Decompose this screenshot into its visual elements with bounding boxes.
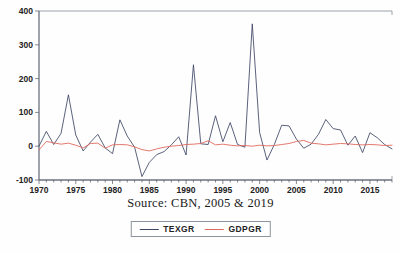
x-tick-label: 1995 xyxy=(213,185,232,195)
chart-legend: TEXGR GDPGR xyxy=(130,221,270,237)
legend-label-gdpgr: GDPGR xyxy=(229,224,262,234)
chart-tick-labels: -100010020030040019701975198019851990199… xyxy=(16,6,380,195)
y-tick-label: 400 xyxy=(19,6,33,16)
y-tick-label: 0 xyxy=(28,141,33,151)
legend-label-texgr: TEXGR xyxy=(163,224,194,234)
chart-figure: -100010020030040019701975198019851990199… xyxy=(0,0,401,253)
x-tick-label: 2015 xyxy=(360,185,379,195)
legend-swatch-gdpgr xyxy=(205,229,224,230)
chart-caption: Source: CBN, 2005 & 2019 xyxy=(0,196,401,211)
line-chart-plot: -100010020030040019701975198019851990199… xyxy=(0,0,401,196)
x-tick-label: 1980 xyxy=(103,185,122,195)
x-tick-label: 1975 xyxy=(66,185,85,195)
legend-item-gdpgr: GDPGR xyxy=(205,224,262,234)
x-tick-label: 1985 xyxy=(140,185,159,195)
y-tick-label: -100 xyxy=(16,175,33,185)
chart-frame xyxy=(39,11,392,180)
x-tick-label: 1990 xyxy=(177,185,196,195)
series-line-gdpgr xyxy=(39,140,392,150)
y-tick-label: 200 xyxy=(19,74,33,84)
x-tick-label: 1970 xyxy=(30,185,49,195)
chart-ticks xyxy=(35,11,392,184)
legend-swatch-texgr xyxy=(139,229,158,230)
x-tick-label: 2005 xyxy=(287,185,306,195)
series-line-texgr xyxy=(39,24,392,177)
y-tick-label: 300 xyxy=(19,40,33,50)
x-tick-label: 2010 xyxy=(324,185,343,195)
chart-series xyxy=(39,24,392,177)
legend-item-texgr: TEXGR xyxy=(139,224,194,234)
x-tick-label: 2000 xyxy=(250,185,269,195)
y-tick-label: 100 xyxy=(19,107,33,117)
